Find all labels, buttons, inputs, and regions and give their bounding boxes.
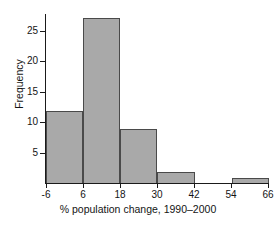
x-tick-label-18: 18 [103, 189, 137, 200]
x-tick-label-42: 42 [177, 189, 211, 200]
y-tick-10 [40, 122, 45, 123]
x-tick-54 [231, 184, 232, 188]
y-tick-20 [40, 61, 45, 62]
y-tick-15 [40, 92, 45, 93]
x-tick-label-30: 30 [140, 189, 174, 200]
y-tick-25 [40, 31, 45, 32]
x-tick-30 [157, 184, 158, 188]
x-tick-66 [268, 184, 269, 188]
x-tick-label-54: 54 [214, 189, 248, 200]
x-tick-neg6 [46, 184, 47, 188]
bar-bin-1 [83, 18, 120, 184]
x-tick-label-neg6: -6 [29, 189, 63, 200]
y-axis-title: Frequency [13, 24, 25, 144]
x-tick-42 [194, 184, 195, 188]
x-tick-6 [83, 184, 84, 188]
y-tick-5 [40, 153, 45, 154]
y-tick-label-5: 5 [0, 148, 38, 158]
x-tick-18 [120, 184, 121, 188]
x-axis-title: % population change, 1990–2000 [0, 203, 276, 215]
x-tick-label-6: 6 [66, 189, 100, 200]
y-axis-line [45, 14, 46, 184]
bar-bin-0 [46, 111, 83, 184]
histogram-chart: 5 10 15 20 25 -6 6 18 30 42 54 66 % popu… [0, 0, 276, 227]
bar-bin-2 [120, 129, 157, 184]
x-tick-label-66: 66 [251, 189, 276, 200]
